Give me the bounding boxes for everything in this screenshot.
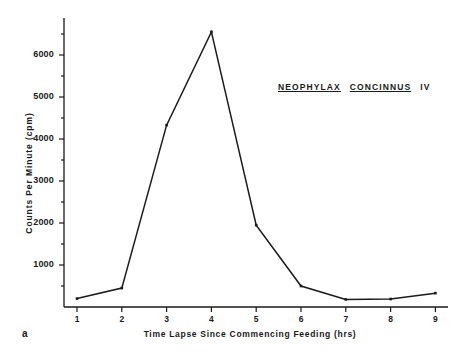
data-point — [434, 292, 437, 295]
x-axis-label: Time Lapse Since Commencing Feeding (hrs… — [100, 329, 400, 339]
x-tick-label: 1 — [68, 314, 86, 324]
data-point — [389, 298, 392, 301]
y-tick-label: 6000 — [12, 49, 54, 59]
annotation-genus: NEOPHYLAX — [278, 82, 341, 92]
x-tick-label: 3 — [158, 314, 176, 324]
data-point — [300, 285, 303, 288]
x-tick-label: 7 — [337, 314, 355, 324]
data-point — [121, 287, 124, 290]
data-point — [255, 224, 258, 227]
data-point — [345, 298, 348, 301]
y-axis-ticks — [59, 34, 64, 286]
data-point — [210, 31, 213, 34]
panel-letter: a — [22, 328, 28, 339]
y-tick-label: 1000 — [12, 259, 54, 269]
y-tick-label: 3000 — [12, 175, 54, 185]
chart-annotation-title: NEOPHYLAXCONCINNUSIV — [278, 82, 430, 92]
x-tick-label: 5 — [247, 314, 265, 324]
y-axis-label: Counts Per Minute (cpm) — [24, 88, 34, 258]
x-axis-ticks — [77, 307, 435, 312]
x-tick-label: 9 — [426, 314, 444, 324]
y-tick-label: 2000 — [12, 217, 54, 227]
y-tick-label: 4000 — [12, 133, 54, 143]
x-tick-label: 4 — [202, 314, 220, 324]
data-point — [76, 297, 79, 300]
data-point — [165, 124, 168, 127]
annotation-species: CONCINNUS — [350, 82, 411, 92]
line-chart — [0, 0, 464, 359]
data-series-line — [77, 32, 435, 300]
annotation-instar: IV — [420, 82, 430, 92]
y-tick-label: 5000 — [12, 91, 54, 101]
x-tick-label: 8 — [382, 314, 400, 324]
x-tick-label: 2 — [113, 314, 131, 324]
figure-panel: Counts Per Minute (cpm) 1000200030004000… — [0, 0, 464, 359]
x-tick-label: 6 — [292, 314, 310, 324]
